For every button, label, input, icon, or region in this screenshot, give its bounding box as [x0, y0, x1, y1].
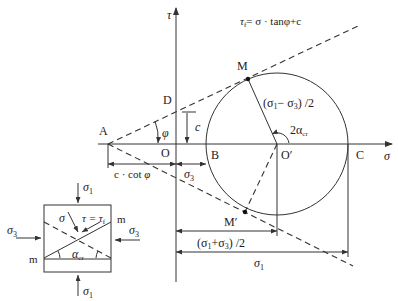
c-cot-phi-label: c · cot φ: [114, 168, 150, 180]
label-Mprime: M′: [224, 215, 238, 229]
label-Oprime: O′: [281, 148, 293, 162]
element-sigma-label: σ: [59, 211, 66, 225]
element-tau-label: τ = τf: [82, 212, 106, 226]
sigma1-dim-label: σ1: [254, 256, 264, 272]
sigma3-left-label: σ3: [7, 223, 17, 239]
sigma3-dim-label: σ3: [184, 167, 194, 183]
label-B: B: [211, 148, 219, 162]
tau-axis-label: τ: [167, 8, 172, 22]
alpha-arc-right: [96, 251, 98, 258]
label-A: A: [99, 124, 108, 138]
phi-label: φ: [162, 126, 169, 140]
element-alpha-label: αcr: [72, 247, 84, 262]
c-label: c: [195, 120, 201, 134]
center-dim-label: (σ1+σ3) /2: [197, 236, 245, 251]
sigma-axis-label: σ: [384, 149, 391, 163]
m-right-label: m: [117, 213, 126, 225]
point-Mprime-dot: [243, 210, 247, 214]
label-D: D: [163, 93, 172, 107]
label-C: C: [356, 148, 364, 162]
angle-2alpha-label: 2αcr: [290, 123, 308, 138]
radius-label: (σ1− σ3) /2: [263, 96, 314, 111]
upper-failure-envelope: [108, 26, 358, 144]
soil-element: σ τ = τf m m αcr σ1 σ1 σ3 σ3: [7, 180, 140, 300]
normal-stress-arrow: [68, 212, 78, 232]
sigma1-top-label: σ1: [83, 180, 93, 196]
mohr-coulomb-diagram: τ σ τf= σ · tanφ+c c φ A D O B O′ C M M′…: [0, 0, 398, 301]
sigma1-bottom-label: σ1: [83, 284, 93, 300]
label-O: O: [161, 146, 170, 160]
label-M: M: [237, 59, 248, 73]
radius-line-OMprime: [245, 144, 277, 212]
point-M-dot: [246, 77, 250, 81]
phi-arc: [155, 121, 158, 143]
svg-text:τf= σ · tanφ+c: τf= σ · tanφ+c: [240, 15, 301, 29]
failure-envelope-formula: τf= σ · tanφ+c: [240, 15, 301, 29]
m-left-label: m: [29, 253, 38, 265]
formula-rest: = σ · tanφ+c: [246, 15, 301, 27]
sigma3-right-label: σ3: [129, 223, 139, 239]
alpha-arc-left: [58, 251, 60, 258]
